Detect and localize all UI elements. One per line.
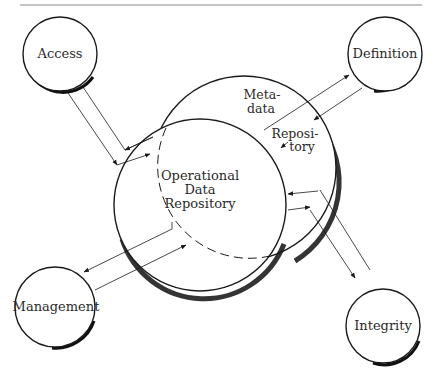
svg-text:Meta-: Meta- [244, 87, 281, 102]
odr-diagram: Access Definition Management Integrity O… [0, 0, 437, 368]
node-definition[interactable]: Definition [348, 17, 422, 91]
node-label-access: Access [37, 46, 83, 61]
node-label-integrity: Integrity [354, 318, 412, 333]
node-label-management: Management [13, 299, 101, 314]
svg-text:tory: tory [289, 139, 316, 154]
node-integrity[interactable]: Integrity [346, 289, 420, 365]
svg-text:Data: Data [184, 182, 215, 197]
svg-text:data: data [247, 101, 275, 116]
node-management[interactable]: Management [13, 267, 101, 348]
node-label-definition: Definition [353, 46, 419, 61]
svg-text:Operational: Operational [161, 168, 239, 183]
svg-text:Repository: Repository [164, 196, 236, 211]
node-access[interactable]: Access [23, 17, 97, 92]
